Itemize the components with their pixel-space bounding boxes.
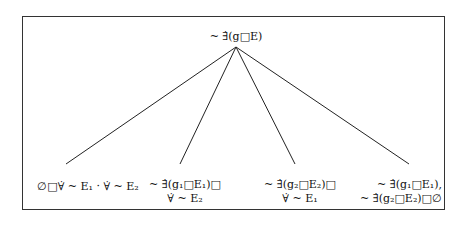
edge-root-leaf4 [236,47,409,164]
leaf-node-1: ∅□∀̇ ~ E₁ · ∀̇ ~ E₂ [28,180,148,194]
leaf-node-4: ~ ∃̇(g₁□E₁), ~ ∃̇(g₂□E₂)□∅ [340,178,442,206]
leaf-2-line-2: ∀̇ ~ E₂ [140,192,230,206]
leaf-4-line-1: ~ ∃̇(g₁□E₁), [340,178,442,192]
leaf-4-line-2: ~ ∃̇(g₂□E₂)□∅ [340,192,442,206]
edge-root-leaf2 [180,47,236,164]
leaf-node-2: ~ ∃̇(g₁□E₁)□ ∀̇ ~ E₂ [140,178,230,206]
leaf-2-line-1: ~ ∃̇(g₁□E₁)□ [140,178,230,192]
leaf-3-line-1: ~ ∃̇(g₂□E₂)□ [255,178,345,192]
root-label: ~ ∃̇(g□E) [210,30,263,43]
leaf-node-3: ~ ∃̇(g₂□E₂)□ ∀̇ ~ E₁ [255,178,345,206]
edge-root-leaf3 [236,47,295,164]
root-node: ~ ∃̇(g□E) [186,30,286,44]
leaf-1-line-1: ∅□∀̇ ~ E₁ · ∀̇ ~ E₂ [28,180,148,194]
edge-root-leaf1 [66,47,236,164]
leaf-3-line-2: ∀̇ ~ E₁ [255,192,345,206]
